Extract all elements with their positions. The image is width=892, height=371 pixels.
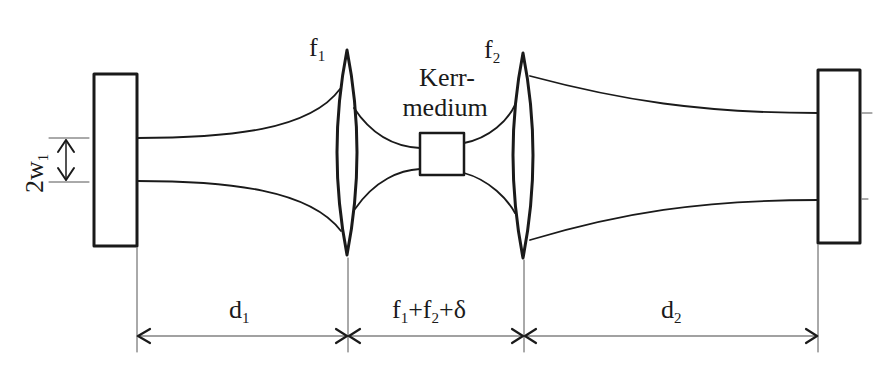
beam-lower-left bbox=[137, 181, 341, 231]
right-mirror bbox=[818, 70, 860, 243]
beam-upper-left bbox=[137, 89, 340, 138]
lens-f1 bbox=[337, 50, 357, 255]
left-mirror bbox=[94, 74, 137, 246]
kerr-medium-label: Kerr- medium bbox=[397, 63, 497, 123]
kerr-medium-box bbox=[420, 133, 464, 175]
dimension-spacing-label: f1+f2+δ bbox=[392, 297, 466, 326]
beam-waist-label: 2w1 bbox=[22, 154, 51, 193]
lens-f2-label: f2 bbox=[484, 37, 500, 66]
beam-lower-mid-right bbox=[464, 173, 515, 213]
lens-f1-label: f1 bbox=[309, 35, 325, 64]
waist-double-arrow bbox=[58, 140, 74, 180]
lens-f2 bbox=[513, 53, 533, 258]
dimension-d2-label: d2 bbox=[661, 297, 682, 326]
beam-upper-right bbox=[530, 76, 818, 113]
beam-lower-mid-left bbox=[355, 169, 420, 209]
beam-lower-right bbox=[530, 200, 818, 240]
dimension-d1-label: d1 bbox=[229, 297, 250, 326]
